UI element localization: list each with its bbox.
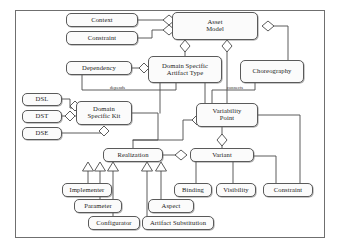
edge-label-connects: connects bbox=[227, 85, 243, 90]
node-context[interactable]: Context bbox=[66, 13, 138, 27]
triangle-parameter bbox=[95, 162, 106, 171]
node-artifact-substitution-label: Artifact Substitution bbox=[148, 220, 208, 227]
node-dsl[interactable]: DSL bbox=[22, 93, 62, 106]
node-visibility-label: Visibility bbox=[221, 187, 251, 194]
node-aspect-label: Aspect bbox=[160, 203, 183, 210]
node-dst-label: DST bbox=[34, 113, 51, 120]
node-choreography-label: Choreography bbox=[251, 68, 294, 75]
triangle-implementer bbox=[83, 162, 94, 171]
node-aspect[interactable]: Aspect bbox=[148, 199, 194, 213]
node-domain-specific-kit[interactable]: DomainSpecific Kit bbox=[76, 101, 132, 125]
diagram-canvas: Context Constraint AssetModel Dependency… bbox=[0, 0, 341, 248]
node-context-label: Context bbox=[89, 17, 115, 24]
edge-constraint-assetmodel bbox=[138, 30, 163, 38]
node-binding[interactable]: Binding bbox=[174, 183, 212, 197]
node-domain-specific-kit-label: DomainSpecific Kit bbox=[86, 106, 123, 120]
node-dependency-label: Dependency bbox=[80, 65, 118, 72]
node-constraint-top[interactable]: Constraint bbox=[66, 31, 138, 45]
node-implementer[interactable]: Implementer bbox=[62, 183, 112, 197]
node-dse-label: DSE bbox=[34, 130, 51, 137]
node-asset-model[interactable]: AssetModel bbox=[172, 12, 258, 40]
node-artifact-substitution[interactable]: Artifact Substitution bbox=[142, 216, 214, 230]
node-configurator-label: Configurator bbox=[94, 220, 133, 227]
node-variability-point[interactable]: VariabilityPoint bbox=[196, 103, 258, 127]
edge-label-depends: depends bbox=[110, 85, 125, 90]
node-binding-label: Binding bbox=[180, 187, 206, 194]
triangle-configurator bbox=[108, 162, 119, 171]
node-variant[interactable]: Variant bbox=[190, 148, 254, 162]
diamond-assetmodel-vp bbox=[222, 40, 232, 52]
node-variant-label: Variant bbox=[210, 152, 234, 159]
diamond-assetmodel-choreography bbox=[262, 21, 274, 31]
edge-dsk-realization bbox=[132, 113, 158, 148]
node-asset-model-label: AssetModel bbox=[204, 19, 226, 33]
node-constraint-right-label: Constraint bbox=[272, 187, 304, 194]
node-parameter-label: Parameter bbox=[82, 203, 114, 210]
edge-vp-realization bbox=[133, 120, 196, 140]
diamond-dst-dsk bbox=[65, 111, 75, 121]
node-dependency[interactable]: Dependency bbox=[66, 61, 132, 75]
diamond-assetmodel-dsat bbox=[180, 40, 190, 52]
node-variability-point-label: VariabilityPoint bbox=[211, 108, 244, 122]
diamond-vp-variant bbox=[217, 134, 227, 146]
node-choreography[interactable]: Choreography bbox=[240, 60, 304, 83]
edge-variant-constraint bbox=[254, 156, 276, 183]
node-configurator[interactable]: Configurator bbox=[88, 216, 140, 230]
triangle-aspect bbox=[156, 162, 167, 171]
node-implementer-label: Implementer bbox=[68, 187, 107, 194]
edge-assetmodel-choreography bbox=[274, 26, 288, 60]
node-domain-specific-artifact-type[interactable]: Domain SpecificArtifact Type bbox=[148, 56, 222, 83]
node-visibility[interactable]: Visibility bbox=[216, 183, 256, 197]
node-realization-label: Realization bbox=[115, 152, 150, 159]
node-constraint-right[interactable]: Constraint bbox=[263, 183, 313, 197]
node-dse[interactable]: DSE bbox=[22, 127, 62, 140]
edge-vp-rightrail bbox=[258, 115, 300, 183]
edge-dse-dsk bbox=[62, 131, 104, 133]
triangle-artifactsub bbox=[142, 162, 153, 171]
diamond-dse-dsk bbox=[99, 126, 109, 136]
node-domain-specific-artifact-type-label: Domain SpecificArtifact Type bbox=[160, 63, 210, 77]
node-realization[interactable]: Realization bbox=[103, 148, 163, 162]
node-constraint-top-label: Constraint bbox=[86, 35, 118, 42]
diamond-realization-variant bbox=[175, 150, 187, 160]
node-parameter[interactable]: Parameter bbox=[74, 199, 122, 213]
node-dst[interactable]: DST bbox=[22, 110, 62, 123]
node-dsl-label: DSL bbox=[34, 96, 51, 103]
